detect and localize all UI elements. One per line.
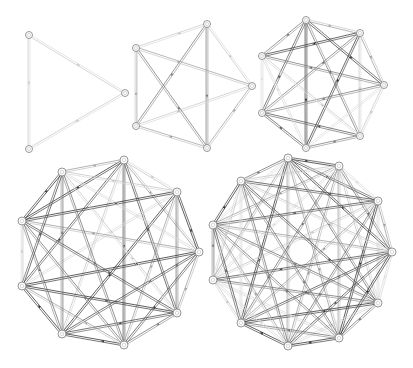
edge-line (136, 47, 252, 85)
graph-node (195, 248, 203, 256)
graph-node (204, 21, 211, 28)
edge-line (29, 34, 125, 92)
graph-node (173, 188, 181, 196)
edge-line (213, 226, 392, 253)
edge-line (136, 85, 252, 125)
graph-k5 (133, 21, 256, 152)
edge-line (242, 181, 340, 338)
edge-line (29, 92, 125, 148)
edge-line (22, 159, 124, 220)
edge-line (287, 158, 338, 338)
edge-line (123, 192, 176, 345)
edge-line (29, 36, 125, 94)
graph-node (26, 32, 33, 39)
edge-line (263, 56, 307, 148)
edge-line (123, 161, 198, 253)
edge-line (212, 226, 338, 339)
edge-line (29, 94, 125, 150)
edge-line (240, 182, 377, 304)
graph-node (133, 45, 140, 52)
edge-line (21, 171, 61, 220)
edge-group (135, 23, 253, 149)
edge-line (359, 33, 383, 85)
edge-line (242, 166, 340, 323)
graph-node (374, 299, 382, 307)
edge-line (22, 253, 199, 287)
edge-line (137, 47, 208, 147)
edge-line (136, 49, 252, 87)
graph-node (335, 334, 343, 342)
edge-group (261, 19, 385, 149)
graph-node (249, 83, 256, 90)
edge-line (63, 172, 125, 345)
edge-line (208, 87, 253, 149)
graph-node (58, 330, 66, 338)
graph-node (209, 276, 217, 284)
graph-node (18, 282, 26, 290)
edge-line (305, 84, 383, 147)
graph-k9 (18, 156, 203, 349)
edge-line (22, 193, 177, 287)
edge-line (21, 287, 61, 335)
edge-line (136, 87, 252, 127)
graph-node (284, 342, 292, 350)
graph-node (237, 177, 245, 185)
edge-line (359, 85, 383, 136)
node-group (259, 17, 388, 152)
edge-line (263, 34, 361, 114)
edge-line (214, 224, 340, 337)
graph-node (303, 17, 310, 24)
graph-node (122, 90, 129, 97)
edge-line (22, 251, 199, 285)
edge-line (263, 20, 307, 113)
edge-line (176, 192, 198, 252)
edge-line (307, 20, 361, 136)
graph-node (303, 145, 310, 152)
graph-node (357, 30, 364, 37)
edge-line (306, 135, 360, 147)
edge-line (208, 23, 253, 85)
edge-line (62, 159, 124, 171)
edge-line (61, 173, 176, 314)
edge-line (307, 86, 385, 149)
graph-node (259, 53, 266, 60)
edge-line (212, 181, 240, 280)
graph-diagram-canvas (0, 0, 413, 368)
edge-line (23, 172, 63, 286)
graph-node (357, 133, 364, 140)
graph-node (18, 217, 26, 225)
graph-node (26, 146, 33, 153)
graph-node (381, 82, 388, 89)
edge-line (61, 191, 176, 333)
edge-line (262, 84, 384, 112)
edge-line (23, 221, 63, 334)
edge-group (28, 34, 126, 150)
edge-line (136, 23, 207, 47)
edge-line (212, 225, 240, 323)
graph-node (259, 110, 266, 117)
graph-node (388, 248, 396, 256)
edge-line (135, 49, 206, 149)
graph-node (237, 319, 245, 327)
graph-node (204, 145, 211, 152)
graph-node (284, 154, 292, 162)
graphs-root (18, 17, 396, 351)
edge-line (262, 57, 384, 86)
edge-line (176, 252, 198, 313)
graph-node (209, 221, 217, 229)
graph-node (374, 197, 382, 205)
graph-node (58, 168, 66, 176)
edge-group (21, 159, 200, 346)
graph-node (173, 309, 181, 317)
graph-k7 (259, 17, 388, 152)
graph-node (335, 162, 343, 170)
edge-line (135, 23, 206, 125)
graph-node (133, 123, 140, 130)
graph-node (120, 341, 128, 349)
node-group (26, 32, 129, 153)
graph-k3 (26, 32, 129, 153)
edge-line (137, 25, 208, 127)
node-group (18, 156, 203, 349)
edge-line (23, 173, 63, 222)
edge-group (212, 157, 393, 347)
